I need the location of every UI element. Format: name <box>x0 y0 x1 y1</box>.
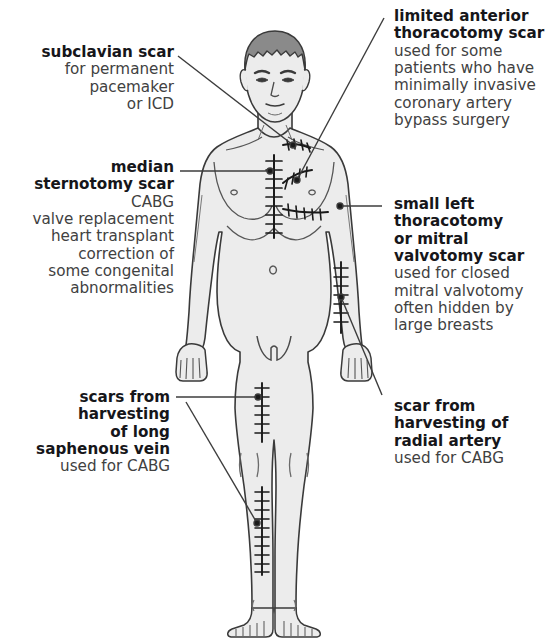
callout-subclavian-body-2: or ICD <box>0 96 174 113</box>
leader-dot-saphenous-calf <box>254 520 260 526</box>
callout-radial-artery-body-0: used for CABG <box>394 450 548 467</box>
callout-small-left-thoracotomy-body-0: used for closed <box>394 265 548 282</box>
body-figure <box>176 31 372 637</box>
leader-dot-saphenous-thigh <box>255 394 261 400</box>
callout-small-left-thoracotomy: small left thoracotomy or mitral valvoto… <box>394 196 548 335</box>
callout-subclavian-body-0: for permanent <box>0 61 174 78</box>
callout-small-left-thoracotomy-body-2: often hidden by <box>394 300 548 317</box>
callout-subclavian-body-1: pacemaker <box>0 79 174 96</box>
callout-small-left-thoracotomy-heading-3: valvotomy scar <box>394 248 548 265</box>
callout-limited-anterior-thoracotomy-heading-0: limited anterior <box>394 8 548 25</box>
callout-saphenous-heading-1: harvesting <box>0 406 170 423</box>
callout-limited-anterior-thoracotomy-body-4: bypass surgery <box>394 112 548 129</box>
callout-radial-artery-heading-0: scar from <box>394 398 548 415</box>
callout-saphenous-body-0: used for CABG <box>0 458 170 475</box>
leader-dot-median-sternotomy <box>267 168 273 174</box>
callout-subclavian-heading-0: subclavian scar <box>0 44 174 61</box>
callout-limited-anterior-thoracotomy-body-0: used for some <box>394 43 548 60</box>
leader-dot-limited-anterior-thoracotomy <box>294 177 300 183</box>
callout-small-left-thoracotomy-body-3: large breasts <box>394 317 548 334</box>
callout-limited-anterior-thoracotomy-heading-1: thoracotomy scar <box>394 25 548 42</box>
callout-saphenous-heading-0: scars from <box>0 389 170 406</box>
eye-left <box>256 78 268 82</box>
callout-median-sternotomy-body-4: some congenital <box>0 263 174 280</box>
callout-median-sternotomy-body-5: abnormalities <box>0 280 174 297</box>
eye-right <box>282 78 294 82</box>
leader-limited-anterior-thoracotomy <box>297 18 384 180</box>
callout-radial-artery-heading-1: harvesting of <box>394 415 548 432</box>
callout-subclavian: subclavian scar for permanent pacemaker … <box>0 44 174 113</box>
callout-saphenous: scars from harvesting of long saphenous … <box>0 389 170 476</box>
callout-limited-anterior-thoracotomy-body-1: patients who have <box>394 60 548 77</box>
leader-dot-small-left-thoracotomy <box>337 203 343 209</box>
callout-small-left-thoracotomy-heading-0: small left <box>394 196 548 213</box>
cardiac-scars-diagram: subclavian scar for permanent pacemaker … <box>0 0 548 643</box>
callout-median-sternotomy-body-1: valve replacement <box>0 211 174 228</box>
callout-saphenous-heading-2: of long <box>0 424 170 441</box>
callout-median-sternotomy-heading-0: median <box>0 159 174 176</box>
callout-radial-artery: scar from harvesting of radial artery us… <box>394 398 548 467</box>
callout-limited-anterior-thoracotomy: limited anterior thoracotomy scar used f… <box>394 8 548 129</box>
callout-limited-anterior-thoracotomy-body-2: minimally invasive <box>394 77 548 94</box>
callout-median-sternotomy-body-0: CABG <box>0 194 174 211</box>
callout-median-sternotomy-heading-1: sternotomy scar <box>0 176 174 193</box>
leader-dot-radial-artery <box>338 294 344 300</box>
callout-limited-anterior-thoracotomy-body-3: coronary artery <box>394 95 548 112</box>
callout-small-left-thoracotomy-body-1: mitral valvotomy <box>394 283 548 300</box>
callout-median-sternotomy: median sternotomy scar CABG valve replac… <box>0 159 174 298</box>
callout-small-left-thoracotomy-heading-2: or mitral <box>394 231 548 248</box>
callout-radial-artery-heading-2: radial artery <box>394 433 548 450</box>
callout-small-left-thoracotomy-heading-1: thoracotomy <box>394 213 548 230</box>
leader-dot-subclavian <box>290 142 296 148</box>
callout-saphenous-heading-3: saphenous vein <box>0 441 170 458</box>
callout-median-sternotomy-body-2: heart transplant <box>0 228 174 245</box>
callout-median-sternotomy-body-3: correction of <box>0 246 174 263</box>
